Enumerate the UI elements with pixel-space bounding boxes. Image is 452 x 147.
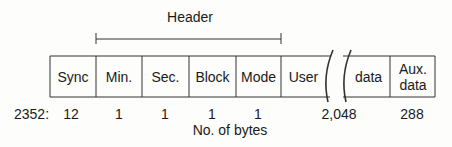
axis-label: No. of bytes <box>180 123 280 137</box>
field-aux-data: Aux. data <box>392 56 434 97</box>
bytes-user-data: 2,048 <box>316 107 362 121</box>
field-sync: Sync <box>50 56 96 97</box>
bytes-min: 1 <box>104 107 134 121</box>
total-bytes: 2352: <box>14 107 56 121</box>
bytes-sec: 1 <box>150 107 180 121</box>
field-user: User <box>281 56 326 97</box>
field-min: Min. <box>96 56 142 97</box>
field-sec: Sec. <box>142 56 189 97</box>
bytes-block: 1 <box>197 107 227 121</box>
field-mode: Mode <box>236 56 281 97</box>
bytes-aux-data: 288 <box>396 107 428 121</box>
bytes-mode: 1 <box>243 107 273 121</box>
bytes-sync: 12 <box>56 107 86 121</box>
field-data: data <box>347 56 390 97</box>
field-block: Block <box>189 56 236 97</box>
header-label: Header <box>150 10 230 24</box>
